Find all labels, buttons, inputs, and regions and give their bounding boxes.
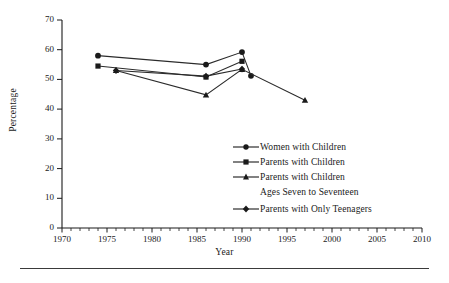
square-marker-icon (232, 155, 260, 169)
series-3 (113, 66, 245, 80)
x-tick-label: 2000 (312, 234, 352, 244)
x-tick-label: 1975 (87, 234, 127, 244)
legend-item-women-with-children: Women with Children (232, 140, 432, 155)
legend-label-line2: Ages Seven to Seventeen (260, 185, 432, 199)
circle-marker-icon (232, 140, 260, 154)
x-tick-label: 1990 (222, 234, 262, 244)
y-tick-label: 30 (32, 133, 54, 143)
x-axis-title: Year (0, 247, 449, 257)
y-tick-label: 0 (32, 222, 54, 232)
legend-label: Parents with Only Teenagers (260, 202, 372, 216)
chart-legend: Women with Children Parents with Childre… (232, 140, 432, 217)
y-tick-label: 70 (32, 14, 54, 24)
x-tick-label: 2005 (357, 234, 397, 244)
legend-label: Women with Children (260, 140, 346, 154)
legend-item-parents-with-children-ages-seven-to-seventeen: Parents with Children Ages Seven to Seve… (232, 170, 432, 199)
legend-label: Parents with Children (260, 155, 345, 169)
y-tick-label: 40 (32, 103, 54, 113)
triangle-marker-icon (232, 170, 260, 184)
y-axis-title: Percentage (8, 80, 18, 140)
y-tick-label: 10 (32, 192, 54, 202)
x-tick-label: 1995 (267, 234, 307, 244)
y-axis-ticks (57, 20, 62, 228)
x-tick-label: 1985 (177, 234, 217, 244)
y-tick-label: 20 (32, 163, 54, 173)
x-tick-label: 1970 (42, 234, 82, 244)
legend-label: Parents with Children (260, 170, 345, 184)
chart-figure: Percentage Year 010203040506070 19701975… (0, 0, 449, 283)
legend-item-parents-with-children: Parents with Children (232, 155, 432, 170)
x-tick-label: 2010 (402, 234, 442, 244)
y-tick-label: 60 (32, 44, 54, 54)
diamond-marker-icon (232, 202, 260, 216)
bottom-divider-rule (20, 268, 429, 269)
y-tick-label: 50 (32, 73, 54, 83)
legend-item-parents-with-only-teenagers: Parents with Only Teenagers (232, 202, 432, 217)
x-tick-label: 1980 (132, 234, 172, 244)
data-series-layer (95, 49, 308, 103)
